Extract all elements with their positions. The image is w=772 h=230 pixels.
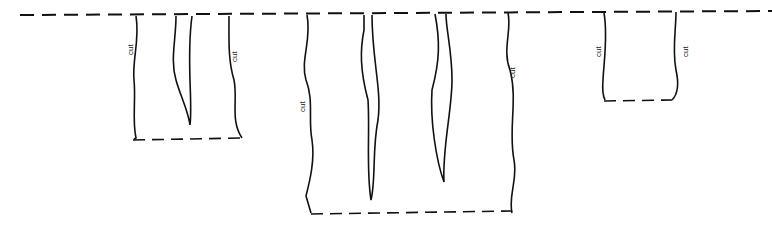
cut-label: cut [681,46,690,57]
cut-label: cut [298,101,307,112]
left-panel-right-cut [229,16,242,138]
middle-panel-left-cut [304,15,313,213]
left-panel: cut cut [126,16,242,140]
top-fold-line [20,11,772,15]
middle-panel-slit-1 [361,15,379,200]
cut-label: cut [230,51,239,62]
cut-label: cut [594,46,603,57]
right-panel-right-cut [672,12,678,100]
cut-label: cut [126,44,135,55]
middle-panel-right-cut [507,13,515,213]
right-panel-left-cut [603,13,606,100]
cutting-diagram: cut cut cut cut cut cut [0,0,772,230]
middle-panel-slit-2 [432,14,452,182]
left-panel-bottom-fold [133,138,242,140]
right-panel: cut cut [594,12,690,101]
left-panel-slit [173,16,192,125]
middle-panel: cut cut [298,13,517,214]
left-panel-left-cut [134,16,137,139]
middle-panel-bottom-fold [311,211,512,214]
right-panel-bottom-fold [604,100,672,101]
cut-label: cut [508,67,517,78]
